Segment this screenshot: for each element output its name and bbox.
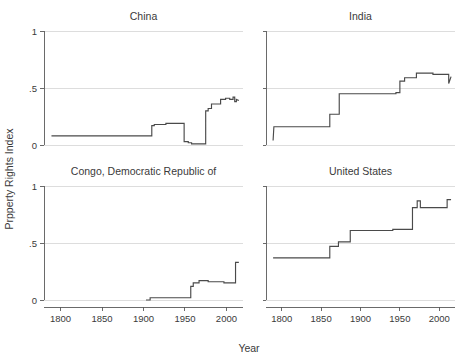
- x-tick-label-1900: 1900: [350, 313, 371, 324]
- series-line: [146, 262, 239, 300]
- x-tick-label-1850: 1850: [91, 313, 112, 324]
- x-tick-label-2000: 2000: [429, 313, 450, 324]
- x-tick-label-1850: 1850: [311, 313, 332, 324]
- y-tick-label-1: 1: [32, 26, 37, 37]
- x-tick-label-1950: 1950: [174, 313, 195, 324]
- y-tick-label-0.5: .5: [29, 238, 37, 249]
- panel-china: 0.51China: [29, 10, 243, 151]
- x-tick-label-2000: 2000: [216, 313, 237, 324]
- y-axis-title: Prpperty Rights Index: [3, 128, 15, 230]
- y-tick-label-1: 1: [32, 181, 37, 192]
- panel-congo-democratic-republic-of: 0.5118001850190019502000Congo, Democrati…: [29, 165, 243, 324]
- small-multiples-line-chart: 0.51ChinaIndia0.5118001850190019502000Co…: [0, 0, 465, 358]
- panel-title: India: [349, 10, 372, 22]
- series-line: [51, 97, 238, 144]
- series-line: [273, 73, 451, 140]
- x-tick-label-1900: 1900: [133, 313, 154, 324]
- x-tick-label-1950: 1950: [389, 313, 410, 324]
- panel-title: United States: [329, 165, 392, 177]
- panel-united-states: 18001850190019502000United States: [263, 165, 455, 324]
- panel-title: Congo, Democratic Republic of: [71, 165, 216, 177]
- series-line: [273, 200, 451, 258]
- x-tick-label-1800: 1800: [271, 313, 292, 324]
- panel-india: India: [263, 10, 455, 145]
- y-tick-label-0: 0: [32, 140, 37, 151]
- chart-figure: 0.51ChinaIndia0.5118001850190019502000Co…: [0, 0, 465, 358]
- y-tick-label-0: 0: [32, 295, 37, 306]
- panel-title: China: [130, 10, 158, 22]
- y-tick-label-0.5: .5: [29, 83, 37, 94]
- x-axis-title: Year: [238, 342, 260, 354]
- x-tick-label-1800: 1800: [50, 313, 71, 324]
